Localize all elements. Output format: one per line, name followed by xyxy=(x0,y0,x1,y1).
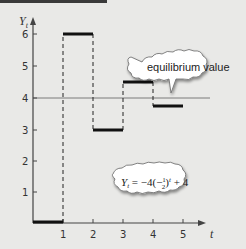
y-tick-label: 3 xyxy=(22,125,28,136)
callout-text: equilibrium value xyxy=(147,61,230,73)
x-tick-label: 1 xyxy=(60,229,66,240)
y-tick-label: 2 xyxy=(22,156,28,167)
y-tick-label: 6 xyxy=(22,29,28,40)
y-tick-labels: 6 5 4 3 2 1 xyxy=(22,29,28,198)
x-axis-title: t xyxy=(210,227,214,241)
y-axis-arrow-icon xyxy=(30,17,36,25)
x-tick-label: 4 xyxy=(150,229,156,240)
x-tick-label: 5 xyxy=(180,229,186,240)
step-chart: 6 5 4 3 2 1 1 2 3 4 5 Yt t xyxy=(0,0,246,249)
y-tick-label: 5 xyxy=(22,61,28,72)
y-axis-title: Yt xyxy=(19,14,29,30)
y-tick-label: 1 xyxy=(22,187,28,198)
x-axis-arrow-icon xyxy=(198,220,206,226)
x-tick-label: 3 xyxy=(120,229,126,240)
x-tick-label: 2 xyxy=(90,229,96,240)
x-tick-labels: 1 2 3 4 5 xyxy=(60,229,186,240)
y-tick-label: 4 xyxy=(22,93,28,104)
